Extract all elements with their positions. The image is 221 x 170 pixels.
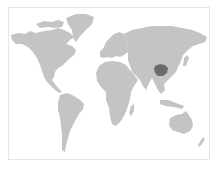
south-america-landmass	[58, 93, 84, 152]
europe-landmass	[100, 32, 128, 58]
southeast-asia-islands	[160, 100, 184, 109]
japan-landmass	[183, 55, 189, 66]
asia-landmass	[124, 26, 207, 94]
world-map	[0, 0, 221, 170]
australia-landmass	[169, 111, 193, 134]
madagascar-landmass	[129, 104, 134, 116]
north-america-landmass	[11, 28, 76, 93]
new-zealand-landmass	[198, 137, 205, 147]
arctic-islands	[36, 20, 64, 28]
